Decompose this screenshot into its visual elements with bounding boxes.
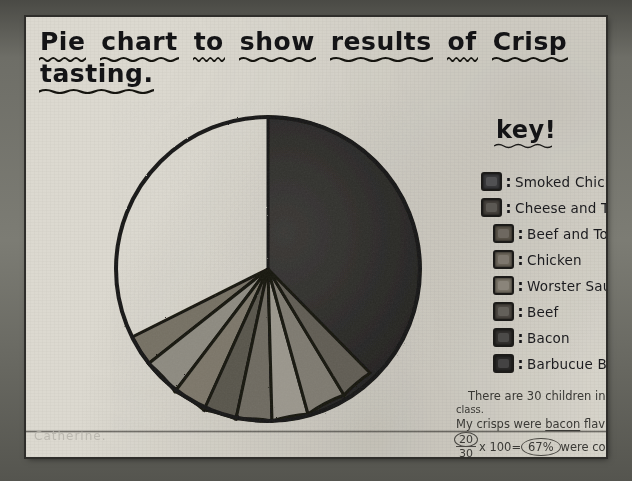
legend-item-beef-and-tomatoe: : Beef and Tomatoe	[493, 221, 606, 246]
legend-colon: :	[514, 251, 527, 269]
legend-swatch-barbucue-beef	[493, 354, 514, 373]
legend-swatch-beef	[493, 302, 514, 321]
student-signature: Catherine.	[34, 429, 107, 443]
calculation-row: 20 30 x 100= 67% were correct so	[456, 434, 606, 457]
note-line-2: class.	[456, 403, 606, 417]
title-word-1: chart	[101, 29, 177, 55]
legend-swatch-beef-and-tomatoe	[493, 224, 514, 243]
title-word-underline	[492, 56, 569, 62]
title-word-5: of	[448, 29, 477, 55]
legend-swatch-worster-saucse	[493, 276, 514, 295]
legend-item-beef: : Beef	[493, 299, 606, 324]
title-word-6: Crisp	[493, 29, 568, 55]
page-title: Pie chart to show results of Crisp tasti…	[40, 29, 580, 93]
title-word-tasting: tasting.	[40, 61, 153, 87]
legend-item-bacon: : Bacon	[493, 325, 606, 350]
legend-swatch-smoked-chicken	[481, 172, 502, 191]
key-heading-text: key!	[496, 116, 556, 144]
multiply-by-100: x 100=	[479, 440, 521, 454]
legend-colon: :	[514, 329, 527, 347]
title-word-2: to	[194, 29, 224, 55]
legend-swatch-bacon	[493, 328, 514, 347]
pie-texture	[118, 119, 418, 419]
result-circle	[521, 438, 561, 456]
pie-chart	[112, 101, 424, 437]
legend-item-chicken: : Chicken	[493, 247, 606, 272]
note-line-3-underlined: bacon	[545, 417, 580, 431]
pie-chart-svg	[112, 101, 424, 437]
note-line-3-pre: My crisps were	[456, 417, 545, 431]
key-heading: key!	[496, 116, 556, 144]
title-line-1: Pie chart to show results of Crisp	[40, 29, 580, 55]
key-heading-underline	[494, 143, 552, 149]
title-word-3: show	[240, 29, 315, 55]
legend-label-beef-and-tomatoe: Beef and Tomatoe	[527, 226, 606, 242]
legend-item-worster-saucse: : Worster Saucse	[493, 273, 606, 298]
legend-label-bacon: Bacon	[527, 330, 570, 346]
note-line-1: There are 30 children in our	[468, 389, 606, 403]
key-legend: : Smoked Chicken : Cheese and Tomatoe : …	[481, 169, 606, 377]
title-word-underline	[193, 56, 225, 62]
legend-item-barbucue-beef: : Barbucue Beef	[493, 351, 606, 376]
legend-swatch-cheese-and-tomatoe	[481, 198, 502, 217]
legend-label-smoked-chicken: Smoked Chicken	[515, 174, 606, 190]
fraction-denominator-text: 30	[459, 448, 473, 457]
legend-item-cheese-and-tomatoe: : Cheese and Tomatoe	[481, 195, 606, 220]
legend-label-cheese-and-tomatoe: Cheese and Tomatoe	[515, 200, 606, 216]
legend-colon: :	[514, 225, 527, 243]
numerator-circle	[454, 432, 478, 447]
title-word-4: results	[331, 29, 432, 55]
title-word-underline	[447, 56, 478, 62]
legend-colon: :	[502, 173, 515, 191]
title-line-2: tasting.	[40, 61, 580, 87]
legend-colon: :	[502, 199, 515, 217]
title-word-underline	[330, 56, 433, 62]
notes-block: There are 30 children in our class. My c…	[456, 389, 606, 457]
title-word-0: Pie	[40, 29, 85, 55]
title-word-underline	[239, 56, 316, 62]
result-percent: 67%	[524, 440, 558, 454]
legend-colon: :	[514, 303, 527, 321]
legend-swatch-chicken	[493, 250, 514, 269]
note-after-result: were correct so	[561, 440, 606, 454]
title-word-underline	[39, 88, 154, 94]
legend-colon: :	[514, 355, 527, 373]
legend-label-barbucue-beef: Barbucue Beef	[527, 356, 606, 372]
photograph-of-worksheet: Pie chart to show results of Crisp tasti…	[0, 0, 632, 481]
fraction-20-over-30: 20 30	[456, 434, 476, 457]
fraction-numerator: 20	[456, 434, 476, 445]
note-line-3-post: flaviour.	[580, 417, 606, 431]
legend-label-beef: Beef	[527, 304, 558, 320]
legend-item-smoked-chicken: : Smoked Chicken	[481, 169, 606, 194]
legend-label-worster-saucse: Worster Saucse	[527, 278, 606, 294]
worksheet-paper: Pie chart to show results of Crisp tasti…	[26, 17, 606, 457]
legend-label-chicken: Chicken	[527, 252, 582, 268]
legend-colon: :	[514, 277, 527, 295]
note-line-3: My crisps were bacon flaviour.	[456, 417, 606, 431]
